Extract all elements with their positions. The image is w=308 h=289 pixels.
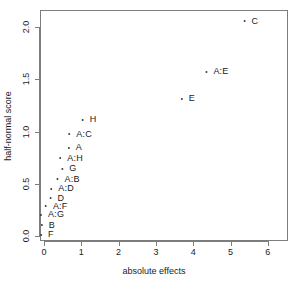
data-point-marker xyxy=(244,20,246,22)
data-points-layer: CA:EEHA:CAA:HGA:BA:DDA:FA:GBF xyxy=(41,11,287,240)
data-point-marker xyxy=(40,234,42,236)
data-point-marker xyxy=(205,71,207,73)
y-tick-label: 0.5 xyxy=(20,179,33,188)
y-tick-mark xyxy=(35,184,39,185)
y-tick-label-text: 1.5 xyxy=(22,73,31,86)
y-tick-label-text: 0.0 xyxy=(22,230,31,243)
data-point-label: C xyxy=(252,17,259,26)
data-point-label: A:E xyxy=(213,67,228,76)
x-tick-mark xyxy=(44,242,45,246)
x-tick-label: 1 xyxy=(79,248,84,257)
x-tick-label: 5 xyxy=(228,248,233,257)
y-tick-mark xyxy=(35,236,39,237)
x-tick-label: 0 xyxy=(41,248,46,257)
y-tick-mark xyxy=(35,132,39,133)
plot-panel: CA:EEHA:CAA:HGA:BA:DDA:FA:GBF xyxy=(40,10,288,241)
x-tick-mark xyxy=(81,242,82,246)
data-point: A:E xyxy=(205,62,228,80)
y-axis-title: half-normal score xyxy=(2,0,14,251)
x-axis-title: absolute effects xyxy=(0,266,308,276)
y-tick-mark xyxy=(35,79,39,80)
data-point: C xyxy=(244,12,259,30)
y-tick-mark xyxy=(35,27,39,28)
data-point-marker xyxy=(82,119,84,121)
data-point-marker xyxy=(181,98,183,100)
x-tick-mark xyxy=(156,242,157,246)
y-tick-label-text: 1.0 xyxy=(22,125,31,138)
y-tick-label-text: 0.5 xyxy=(22,177,31,190)
x-tick-mark xyxy=(193,242,194,246)
y-axis-title-text: half-normal score xyxy=(3,91,13,161)
x-tick-label: 4 xyxy=(191,248,196,257)
y-tick-label: 1.0 xyxy=(20,127,33,136)
y-axis-line xyxy=(39,27,40,237)
x-tick-mark xyxy=(231,242,232,246)
data-point-label: E xyxy=(189,94,195,103)
data-point-label: H xyxy=(90,115,97,124)
data-point-marker xyxy=(68,133,70,135)
y-tick-label: 1.5 xyxy=(20,75,33,84)
data-point: E xyxy=(181,89,195,107)
x-tick-mark xyxy=(268,242,269,246)
x-tick-label: 3 xyxy=(153,248,158,257)
data-point-label: F xyxy=(48,230,54,239)
x-tick-label: 6 xyxy=(265,248,270,257)
half-normal-plot: CA:EEHA:CAA:HGA:BA:DDA:FA:GBF 0123456 0.… xyxy=(0,0,308,289)
x-tick-label: 2 xyxy=(116,248,121,257)
y-tick-label: 2.0 xyxy=(20,23,33,32)
x-tick-mark xyxy=(119,242,120,246)
y-tick-label-text: 2.0 xyxy=(22,21,31,34)
y-tick-label: 0.0 xyxy=(20,232,33,241)
